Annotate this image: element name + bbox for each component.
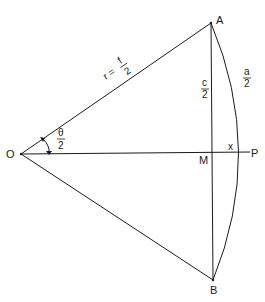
axis-line-op [21,152,250,154]
half-angle-denominator: 2 [58,140,64,151]
radius-line-ob [21,154,213,280]
half-chord-numerator: c [202,77,207,88]
radius-denominator: 2 [122,64,133,76]
arrowhead-icon [46,151,52,155]
arc-diagram: A B O M P x θ 2 c 2 a 2 r = f 2 [0,0,265,302]
radius-lhs: r = [101,66,117,82]
point-label-m: M [199,154,208,166]
point-label-p: P [251,147,258,159]
arc-apb [211,23,239,280]
radius-numerator: f [115,55,124,66]
point-a-dot [210,22,212,24]
angle-arc [43,139,49,153]
radius-label: r = f 2 [98,53,134,88]
point-o-dot [20,153,22,155]
point-b-dot [212,279,214,281]
half-arc-numerator: a [244,66,250,77]
half-chord-denominator: 2 [202,89,208,100]
sagitta-label: x [228,141,233,152]
point-label-b: B [210,284,217,296]
point-label-o: O [6,148,15,160]
chord-line-ab [211,23,213,280]
half-angle-numerator: θ [58,127,64,138]
half-arc-denominator: 2 [244,78,250,89]
point-label-a: A [216,14,224,26]
radius-line-oa [21,23,211,154]
